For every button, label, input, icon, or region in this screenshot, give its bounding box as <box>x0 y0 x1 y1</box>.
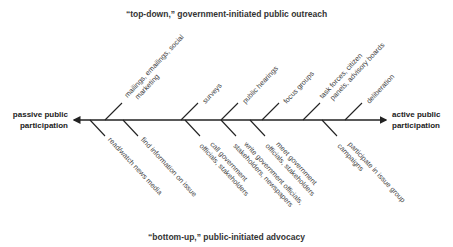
upper-branch-2 <box>181 103 198 120</box>
lower-branch-3 <box>185 120 200 136</box>
upper-branch-6 <box>345 103 362 120</box>
upper-branch-1 <box>105 103 122 120</box>
lower-branch-5 <box>250 120 265 136</box>
fishbone-diagram <box>0 0 453 247</box>
upper-branch-3 <box>221 103 238 120</box>
upper-branch-4 <box>262 103 279 120</box>
lower-branch-4 <box>221 120 236 136</box>
lower-branch-6 <box>322 120 337 136</box>
lower-branch-1 <box>90 120 105 136</box>
upper-branch-5 <box>303 103 320 120</box>
lower-branch-2 <box>123 120 138 136</box>
